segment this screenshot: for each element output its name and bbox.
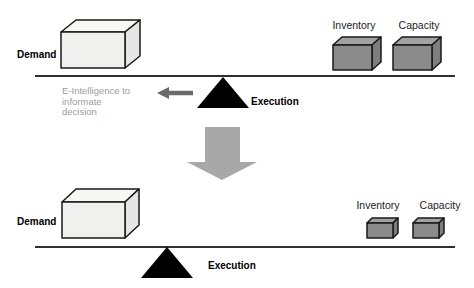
bottom-demand-box (61, 188, 141, 240)
top-demand-label: Demand (17, 49, 56, 61)
box-front-face (413, 223, 439, 238)
arrow-shape (157, 87, 193, 99)
top-capacity-box (392, 36, 443, 72)
top-inventory-label: Inventory (324, 19, 384, 31)
box-front-face (333, 45, 372, 70)
note-line: decision (62, 107, 142, 118)
bottom-execution-label: Execution (208, 260, 256, 272)
bottom-capacity-label: Capacity (410, 199, 470, 211)
top-execution-label: Execution (251, 96, 299, 108)
box-front-face (61, 32, 125, 68)
triangle-shape (141, 247, 193, 278)
top-fulcrum-triangle (197, 77, 249, 108)
down-arrow-icon (186, 127, 259, 181)
triangle-shape (197, 77, 249, 108)
left-arrow-icon (157, 86, 193, 100)
bottom-inventory-label: Inventory (348, 199, 408, 211)
bottom-fulcrum-triangle (141, 247, 193, 278)
arrow-shape (187, 127, 257, 180)
bottom-demand-label: Demand (17, 216, 56, 228)
top-demand-box (60, 19, 142, 70)
note-line: E-Intelligence to (62, 86, 142, 97)
bottom-capacity-box (412, 217, 446, 240)
bottom-balance-beam (35, 246, 455, 248)
box-front-face (367, 223, 393, 238)
top-inventory-box (332, 36, 383, 72)
top-capacity-label: Capacity (389, 19, 449, 31)
box-front-face (393, 45, 432, 70)
box-front-face (62, 202, 125, 238)
e-intelligence-note: E-Intelligence to informate decision (62, 86, 142, 118)
balance-diagram: Demand Inventory Capacity Execution E-In… (0, 0, 474, 288)
bottom-inventory-box (366, 217, 400, 240)
